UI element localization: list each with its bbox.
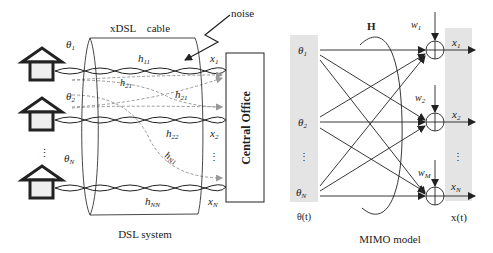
sum-node-n — [426, 187, 444, 205]
noise-label: noise — [231, 7, 254, 19]
h-matrix-ellipse — [360, 37, 402, 214]
mimo-model-caption: MIMO model — [359, 233, 420, 245]
house-icon-2 — [22, 98, 62, 130]
noise-arrow — [185, 15, 230, 60]
cable-label: xDSL cable — [110, 22, 170, 34]
theta-2-label: θ2 — [66, 90, 75, 104]
h11-label: h11 — [138, 52, 150, 66]
h22-label: h22 — [166, 127, 179, 141]
theta-1-label: θ1 — [66, 38, 75, 52]
crosstalk-arrows — [72, 75, 222, 178]
house-icon-1 — [22, 48, 62, 80]
central-office-label: Central Office — [239, 91, 253, 165]
dsl-system: ⋮ xDSL cable — [22, 7, 264, 240]
wm-label: wM — [418, 167, 432, 180]
hnn-label: hNN — [145, 195, 160, 209]
w1-label: w1 — [411, 19, 421, 32]
mimo-connections — [320, 50, 425, 196]
w2-label: w2 — [415, 92, 426, 105]
sum-node-2 — [426, 113, 444, 131]
twisted-pair-2 — [55, 117, 226, 123]
mimo-model: H θ1 θ2 ⋮ θN θ(t) — [290, 12, 475, 245]
x-ellipsis: ⋮ — [209, 151, 219, 162]
twisted-pair-n — [55, 185, 226, 191]
house-ellipsis: ⋮ — [39, 147, 50, 159]
dsl-system-caption: DSL system — [118, 228, 172, 240]
theta-n-label: θN — [64, 152, 74, 166]
x1-label: x1 — [209, 52, 218, 66]
house-icon-n — [22, 166, 62, 198]
hn1-label: hN1 — [162, 149, 180, 167]
xn-label: xN — [207, 195, 218, 209]
x2-label: x2 — [209, 127, 219, 141]
output-vector-label: x(t) — [451, 211, 467, 224]
dsl-mimo-diagram: ⋮ xDSL cable — [0, 0, 493, 253]
mimo-theta-ellipsis: ⋮ — [299, 151, 309, 162]
sum-node-1 — [426, 41, 444, 59]
input-panel — [290, 35, 318, 202]
input-vector-label: θ(t) — [297, 211, 311, 223]
h-matrix-label: H — [367, 20, 376, 32]
h12-label: h21 — [120, 77, 132, 90]
mimo-x-ellipsis: ⋮ — [453, 151, 463, 162]
